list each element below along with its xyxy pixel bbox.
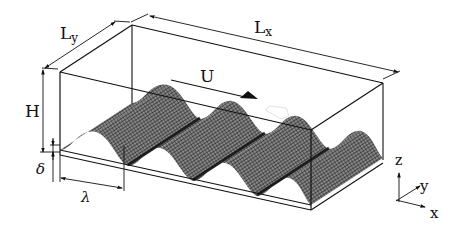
label-lambda: λ bbox=[80, 188, 91, 206]
dimension-delta bbox=[50, 138, 60, 182]
dimension-ly bbox=[42, 21, 130, 69]
label-u: U bbox=[200, 66, 214, 86]
wavy-wall-surface bbox=[60, 85, 383, 205]
dimension-lambda bbox=[60, 146, 124, 191]
dimension-h bbox=[40, 70, 60, 152]
label-lx: Lx bbox=[254, 17, 272, 39]
dimension-lx bbox=[131, 14, 400, 79]
faint-mark bbox=[265, 106, 289, 119]
label-delta: δ bbox=[36, 160, 45, 178]
axis-label-z: z bbox=[395, 152, 402, 168]
velocity-arrow bbox=[171, 80, 258, 99]
label-h: H bbox=[25, 101, 40, 121]
label-ly: Ly bbox=[60, 23, 78, 45]
channel-diagram: Lx Ly H δ λ U z y x bbox=[0, 0, 464, 233]
axis-label-x: x bbox=[430, 204, 439, 222]
axis-label-y: y bbox=[419, 177, 429, 195]
